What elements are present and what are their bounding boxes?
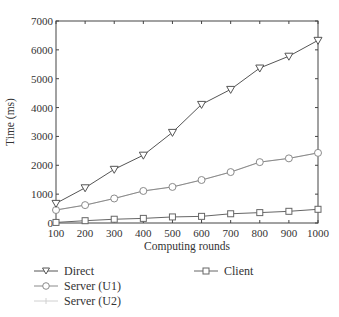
x-tick-label: 1000 [307, 227, 330, 239]
series-group [52, 37, 322, 225]
y-tick-label: 1000 [31, 188, 54, 200]
y-tick-label: 6000 [31, 44, 54, 56]
legend-label: Direct [64, 264, 94, 279]
y-tick-label: 3000 [31, 130, 54, 142]
legend-label: Server (U1) [64, 279, 121, 294]
x-tick-label: 800 [252, 227, 269, 239]
x-tick-label: 500 [164, 227, 181, 239]
y-tick-label: 4000 [31, 102, 54, 114]
y-tick-label: 7000 [31, 15, 54, 27]
series-server-u1 [53, 149, 322, 213]
x-axis-label: Computing rounds [144, 240, 230, 253]
y-tick-label: 2000 [31, 159, 54, 171]
plus-marker-icon [34, 294, 58, 308]
legend-item-client: Client [194, 264, 253, 278]
x-tick-label: 700 [222, 227, 239, 239]
legend-item-direct: Direct [34, 264, 94, 278]
square-marker-icon [194, 264, 218, 278]
legend-label: Client [224, 264, 253, 279]
circle-marker-icon [34, 279, 58, 293]
legend: Direct Server (U1) Server (U2) Client [34, 264, 324, 316]
x-tick-label: 300 [106, 227, 123, 239]
plot-frame [56, 21, 318, 223]
triangle-down-marker-icon [34, 264, 58, 278]
legend-item-server-u1: Server (U1) [34, 279, 121, 293]
y-axis-ticks: 01000200030004000500060007000 [31, 15, 318, 229]
x-tick-label: 600 [193, 227, 210, 239]
y-axis-label: Time (ms) [4, 98, 17, 146]
y-tick-label: 5000 [31, 73, 54, 85]
line-chart: 1002003004005006007008009001000 01000200… [0, 0, 339, 262]
series-direct [52, 37, 322, 207]
x-tick-label: 200 [77, 227, 94, 239]
legend-label: Server (U2) [64, 294, 121, 309]
x-tick-label: 900 [281, 227, 298, 239]
x-tick-label: 400 [135, 227, 152, 239]
legend-item-server-u2: Server (U2) [34, 294, 121, 308]
